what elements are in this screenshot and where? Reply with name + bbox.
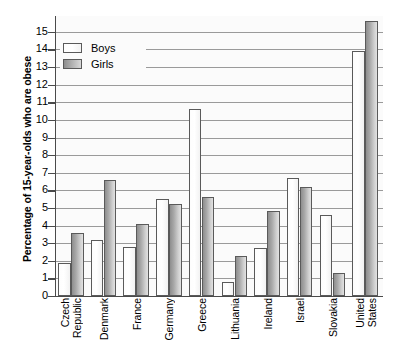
bar-group [285,16,318,296]
y-tick-mark [48,278,55,279]
x-label-line: France [131,298,143,330]
bar-girls [267,211,280,296]
y-tick-mark [48,138,55,139]
y-tick-label: 12 [26,79,48,90]
x-label-line: Greece [196,298,208,332]
x-label-line: Republic [71,298,83,338]
bar-group [154,16,187,296]
x-label-czech-republic: CzechRepublic [55,298,88,353]
x-label-line: Lithuania [229,298,241,340]
x-axis-category-labels: CzechRepublicDenmarkFranceGermanyGreeceL… [55,298,382,353]
legend-swatch-boys [63,43,82,53]
x-label-line: Germany [163,298,175,340]
bar-boys [352,51,365,296]
x-label-israel: Israel [284,298,317,353]
bar-boys [156,199,169,296]
y-tick-label: 11 [26,96,48,107]
y-tick-label: 5 [26,202,48,213]
legend-label: Boys [91,43,115,54]
bar-girls [71,233,84,296]
bar-boys [222,282,235,296]
x-label-line: States [366,298,378,327]
y-tick-label: 6 [26,184,48,195]
y-tick-mark [48,85,55,86]
y-tick-mark [48,190,55,191]
bar-group [350,16,383,296]
y-tick-mark [48,49,55,50]
bar-boys [189,109,202,296]
y-tick-label: 2 [26,255,48,266]
bar-girls [235,256,248,297]
y-tick-label: 3 [26,237,48,248]
bar-boys [58,263,71,296]
y-tick-mark [48,173,55,174]
y-tick-label: 15 [26,26,48,37]
legend-item-boys: Boys [63,40,143,56]
y-tick-mark [48,102,55,103]
y-tick-label: 0 [26,290,48,301]
obesity-bar-chart: Percentage of 15-year-olds who are obese… [0,0,400,353]
y-tick-label: 14 [26,43,48,54]
y-tick-mark [48,243,55,244]
bar-girls [300,187,313,296]
bar-girls [202,197,215,296]
bar-girls [136,224,149,296]
bar-boys [123,247,136,296]
legend-item-girls: Girls [63,56,143,72]
bar-boys [91,240,104,296]
y-tick-label: 13 [26,61,48,72]
bar-girls [169,204,182,296]
y-tick-mark [48,261,55,262]
y-tick-label: 1 [26,272,48,283]
x-label-line: Denmark [98,298,110,340]
y-tick-label: 8 [26,149,48,160]
x-label-denmark: Denmark [88,298,121,353]
y-tick-mark [48,67,55,68]
chart-legend: BoysGirls [60,38,146,75]
x-label-line: Israel [294,298,306,323]
x-label-slovakia: Slovakia [317,298,350,353]
legend-label: Girls [91,59,114,70]
x-label-germany: Germany [153,298,186,353]
x-label-line: Czech [59,298,71,327]
x-label-line: Ireland [262,298,274,329]
y-tick-label: 9 [26,132,48,143]
bar-girls [365,21,378,296]
y-tick-mark [48,226,55,227]
x-label-france: France [120,298,153,353]
y-tick-label: 10 [26,114,48,125]
x-label-line: Slovakia [327,298,339,337]
y-tick-mark [48,296,55,297]
y-tick-mark [48,120,55,121]
bar-boys [287,178,300,296]
x-label-line: United [354,298,366,328]
x-label-lithuania: Lithuania [219,298,252,353]
x-label-ireland: Ireland [251,298,284,353]
y-tick-mark [48,155,55,156]
y-tick-mark [48,32,55,33]
y-tick-label: 7 [26,167,48,178]
bar-group [318,16,351,296]
y-tick-mark [48,208,55,209]
bar-boys [320,215,333,296]
bar-girls [104,180,117,296]
x-label-greece: Greece [186,298,219,353]
y-tick-label: 4 [26,220,48,231]
bar-group [220,16,253,296]
bar-group [252,16,285,296]
x-label-united-states: UnitedStates [349,298,382,353]
bar-boys [254,248,267,296]
bar-group [187,16,220,296]
legend-swatch-girls [63,59,82,69]
bar-girls [333,273,346,296]
